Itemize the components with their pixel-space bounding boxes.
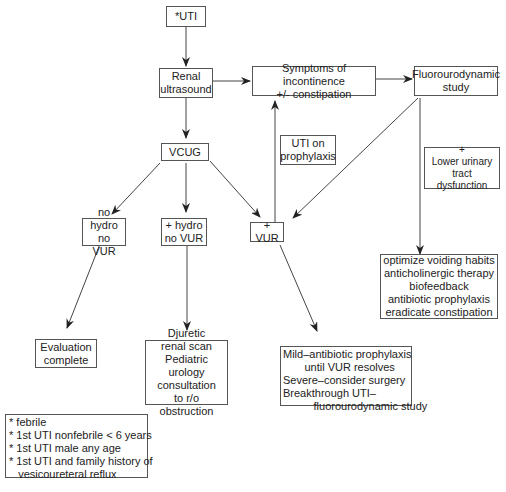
vur-mgmt-line-1: Mild–antibiotic prophylaxis <box>283 348 411 361</box>
node-symptoms-incontinence: Symptoms of incontinence +/- constipatio… <box>252 66 376 96</box>
vur-mgmt-line-2: until VUR resolves <box>283 361 395 374</box>
node-lutd-management: optimize voiding habits anticholinergic … <box>380 254 498 319</box>
node-plus-vur: + VUR <box>250 222 284 242</box>
node-diuretic-renal-scan: Djuretic renal scan Pediatric urology co… <box>145 340 228 405</box>
footnote-line-2: * 1st UTI nonfebrile < 6 years <box>9 429 152 442</box>
node-hydro-no-vur: + hydro no VUR <box>161 218 207 246</box>
edge-vcug-to-vur <box>210 161 260 217</box>
vur-mgmt-line-5: fluorourodynamic study <box>283 400 427 413</box>
vur-mgmt-line-4: Breakthrough UTI– <box>283 387 376 400</box>
flowchart-canvas: *UTI Renal ultrasound Symptoms of incont… <box>0 0 506 492</box>
edge-vur-to-mgmt <box>280 245 317 331</box>
node-renal-ultrasound: Renal ultrasound <box>159 68 213 98</box>
node-uti-on-prophylaxis: UTI on prophylaxis <box>280 135 336 165</box>
node-vcug: VCUG <box>161 143 209 161</box>
footnote-line-3: * 1st UTI male any age <box>9 442 121 455</box>
node-evaluation-complete: Evaluation complete <box>35 339 97 368</box>
node-uti: *UTI <box>166 6 206 27</box>
footnote-line-1: * febrile <box>9 416 46 429</box>
footnote-line-4: * 1st UTI and family history of <box>9 455 153 468</box>
node-footnote-criteria: * febrile * 1st UTI nonfebrile < 6 years… <box>5 414 148 478</box>
node-fluorourodynamic-study: Fluorourodynamic study <box>414 66 498 96</box>
node-vur-management: Mild–antibiotic prophylaxis until VUR re… <box>280 346 412 406</box>
footnote-line-5: vesicoureteral reflux <box>9 468 117 481</box>
vur-mgmt-line-3: Severe–consider surgery <box>283 374 405 387</box>
node-lower-urinary-tract-dysfunction: + Lower urinary tract dysfunction <box>424 147 500 189</box>
node-no-hydro-no-vur: no hydro no VUR <box>82 218 126 246</box>
